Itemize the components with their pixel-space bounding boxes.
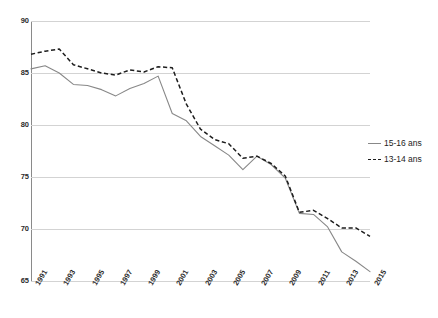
y-tick-label-85: 85 [3,69,29,77]
chart-legend: 15-16 ans13-14 ans [368,136,438,168]
x-axis: 1991199319951997199920012003200520072009… [31,283,370,318]
series-line-15-16-ans [31,66,370,272]
legend-label: 13-14 ans [384,155,422,164]
legend-item-15-16-ans[interactable]: 15-16 ans [368,136,438,150]
legend-item-13-14-ans[interactable]: 13-14 ans [368,152,438,166]
series-line-13-14-ans [31,49,370,236]
series-container [31,21,370,281]
y-tick-label-90: 90 [3,17,29,25]
y-tick-label-70: 70 [3,225,29,233]
legend-line-glyph [368,159,381,160]
y-tick-label-80: 80 [3,121,29,129]
x-tick-label-2015: 2015 [373,269,388,287]
legend-line-glyph [368,143,381,144]
legend-solid-line-icon [368,139,381,147]
legend-label: 15-16 ans [384,139,422,148]
plot-area [31,21,370,281]
line-chart: 657075808590 199119931995199719992001200… [0,0,438,318]
legend-dashed-line-icon [368,155,381,163]
y-tick-label-65: 65 [3,277,29,285]
y-tick-label-75: 75 [3,173,29,181]
y-axis: 657075808590 [0,0,29,318]
